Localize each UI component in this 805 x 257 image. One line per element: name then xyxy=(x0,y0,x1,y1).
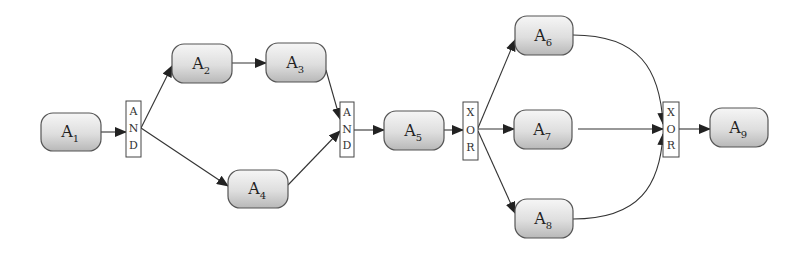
activity-node-a8: A8 xyxy=(515,199,573,238)
edge-g3-a8 xyxy=(478,131,515,213)
node-subscript: 1 xyxy=(73,133,79,144)
node-label: A xyxy=(728,118,741,137)
activity-node-a2: A2 xyxy=(172,44,232,83)
workflow-diagram: ANDANDXORXOR A1A2A3A4A5A6A7A8A9 xyxy=(0,0,805,257)
gateway-letter: R xyxy=(466,141,475,154)
node-subscript: 7 xyxy=(545,131,551,142)
activity-node-a9: A9 xyxy=(710,108,768,147)
gateway-and-g1: AND xyxy=(126,101,141,157)
edge-g3-a6 xyxy=(478,40,515,128)
node-subscript: 5 xyxy=(416,132,422,143)
edge-a3-g2 xyxy=(326,70,340,119)
gateway-letter: A xyxy=(342,106,352,119)
node-label: A xyxy=(403,121,416,140)
node-label: A xyxy=(191,54,204,73)
node-label: A xyxy=(60,122,73,141)
node-subscript: 4 xyxy=(260,190,266,201)
gateway-and-g2: AND xyxy=(340,102,354,157)
gateway-letter: O xyxy=(466,124,475,137)
gateway-letter: D xyxy=(129,139,138,152)
gateway-letter: N xyxy=(129,122,139,135)
gateway-letter: D xyxy=(343,139,352,152)
activity-node-a7: A7 xyxy=(514,110,572,149)
gateway-xor-g3: XOR xyxy=(463,102,478,160)
node-label: A xyxy=(533,26,546,45)
node-subscript: 8 xyxy=(546,220,552,231)
edge-g1-a2 xyxy=(141,66,172,128)
gateway-letter: X xyxy=(467,106,475,119)
gateway-letter: A xyxy=(129,105,139,118)
node-subscript: 6 xyxy=(546,37,552,48)
node-label: A xyxy=(532,120,545,139)
activity-node-a4: A4 xyxy=(228,170,288,208)
node-subscript: 2 xyxy=(204,65,210,76)
node-label: A xyxy=(247,179,260,198)
node-subscript: 9 xyxy=(741,129,747,140)
edge-g1-a4 xyxy=(141,128,228,186)
edge-a6-g4 xyxy=(573,35,663,124)
edge-a8-g4 xyxy=(573,134,663,219)
gateway-xor-g4: XOR xyxy=(663,102,679,157)
nodes-layer: A1A2A3A4A5A6A7A8A9 xyxy=(41,16,768,238)
node-subscript: 3 xyxy=(298,64,304,75)
gateway-letter: X xyxy=(667,106,675,119)
activity-node-a1: A1 xyxy=(41,113,101,151)
activity-node-a3: A3 xyxy=(266,43,326,82)
gateway-letter: R xyxy=(667,139,676,152)
gateway-letter: N xyxy=(342,123,352,136)
node-label: A xyxy=(533,209,546,228)
node-label: A xyxy=(285,53,298,72)
activity-node-a5: A5 xyxy=(384,111,444,150)
activity-node-a6: A6 xyxy=(515,16,573,55)
gateway-letter: O xyxy=(666,123,675,136)
edge-a4-g2 xyxy=(288,131,340,185)
